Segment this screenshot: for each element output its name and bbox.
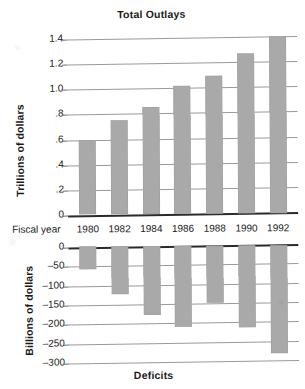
- bottom-chart-y-tick-label: –100: [42, 280, 64, 290]
- top-chart-bar: [205, 75, 223, 213]
- bottom-chart-y-tick-labels: 0–50–100–150–200–250–300: [25, 1, 65, 389]
- figure-plate: Total Outlays Trillions of dollars 0.2.4…: [0, 0, 305, 389]
- bottom-chart-bar: [79, 246, 96, 269]
- fiscal-year-tick-label: 1988: [200, 223, 230, 234]
- bottom-chart-bar: [206, 246, 223, 303]
- top-chart-bar: [110, 120, 128, 214]
- bottom-chart-y-tick-label: –250: [43, 338, 65, 348]
- bottom-chart-bar: [238, 245, 256, 327]
- fiscal-year-tick-label: 1980: [73, 223, 103, 234]
- fiscal-year-tick-label: 1992: [263, 222, 293, 233]
- bottom-chart-y-tick-label: –50: [48, 261, 65, 271]
- fiscal-year-tick-label: 1984: [136, 223, 166, 234]
- bottom-chart-tick-mark: [64, 306, 69, 307]
- bottom-chart-bar: [111, 246, 128, 294]
- top-chart-plot-area: [67, 37, 298, 214]
- bottom-chart-tick-mark: [64, 364, 69, 365]
- bottom-chart-y-tick-label: –200: [43, 319, 65, 329]
- bottom-chart-gridline: [69, 341, 299, 346]
- bottom-chart-bar: [143, 246, 160, 315]
- bottom-chart-y-tick-label: –300: [43, 358, 65, 368]
- bottom-chart-y-tick-label: 0: [59, 242, 65, 252]
- fiscal-year-tick-label: 1990: [231, 222, 261, 233]
- bottom-chart-y-tick-label: –150: [42, 300, 64, 310]
- top-chart-gridline: [67, 61, 297, 66]
- fiscal-year-tick-label: 1982: [105, 223, 135, 234]
- bottom-chart-bar: [270, 245, 288, 353]
- bottom-chart-plot-area: [68, 245, 299, 362]
- bottom-chart-bar: [175, 246, 192, 327]
- bottom-chart-title: Deficits: [1, 368, 305, 382]
- bottom-chart-tick-mark: [63, 248, 68, 249]
- top-chart-gridline: [67, 36, 297, 41]
- top-chart-y-axis-label: Trillions of dollars: [13, 104, 26, 197]
- top-chart-bar: [174, 86, 192, 214]
- bottom-chart-tick-mark: [64, 344, 69, 345]
- fiscal-year-tick-label: 1986: [168, 223, 198, 234]
- top-chart-bar: [79, 140, 96, 214]
- bottom-chart-tick-mark: [64, 286, 69, 287]
- top-chart-bar: [269, 36, 287, 213]
- bottom-chart-gridline: [69, 360, 299, 365]
- top-chart-bar: [142, 107, 160, 214]
- top-chart-bar: [237, 54, 255, 214]
